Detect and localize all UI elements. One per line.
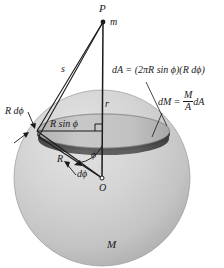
label-mass-m: m xyxy=(110,17,117,27)
equation-mass-equals: = xyxy=(171,96,183,107)
label-radius-R: R xyxy=(57,154,63,164)
fraction-m-over-a: MA xyxy=(183,90,193,112)
label-distance-r: r xyxy=(105,99,109,109)
equation-mass-tail: dA xyxy=(193,96,204,107)
equation-area-equals: = xyxy=(123,64,135,75)
label-ring-radius: R sin ϕ xyxy=(50,119,78,129)
equation-area-rhs: (2πR sin ϕ)(R dϕ) xyxy=(135,64,205,75)
label-center-o: O xyxy=(99,183,106,193)
fraction-numerator-m: M xyxy=(183,90,193,102)
diagram-canvas xyxy=(0,0,224,268)
equation-mass-lhs: dM xyxy=(158,96,171,107)
equation-mass-element: dM=MAdA xyxy=(158,90,204,112)
fraction-denominator-a: A xyxy=(183,102,193,113)
axis-line-p-to-o xyxy=(102,22,103,178)
equation-area-element: dA=(2πR sin ϕ)(R dϕ) xyxy=(112,65,205,75)
label-sphere-mass-M: M xyxy=(107,239,116,250)
point-p-marker xyxy=(101,20,106,25)
physics-diagram-spherical-shell: P m s r R dϕ R sin ϕ R ϕ dϕ O M dA=(2πR … xyxy=(0,0,224,268)
label-distance-s: s xyxy=(61,64,65,74)
label-arc-element-rdphi: R dϕ xyxy=(5,106,24,116)
label-point-p: P xyxy=(99,3,106,14)
center-o-marker xyxy=(100,176,104,180)
equation-area-lhs: dA xyxy=(112,64,123,75)
label-angle-phi: ϕ xyxy=(91,150,96,160)
label-angle-dphi: dϕ xyxy=(77,169,87,179)
